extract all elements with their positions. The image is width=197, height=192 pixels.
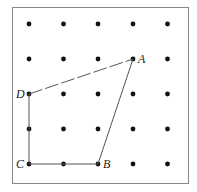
grid-dot — [96, 92, 101, 97]
segment-ab — [98, 59, 133, 164]
grid-dot — [61, 57, 66, 62]
grid-dot — [131, 127, 136, 132]
grid-dot — [165, 57, 170, 62]
grid-dot — [165, 162, 170, 167]
grid-dot — [96, 127, 101, 132]
grid-dot — [131, 22, 136, 27]
grid-dot — [165, 22, 170, 27]
grid-dots — [27, 22, 170, 167]
grid-dot — [165, 92, 170, 97]
grid-dot — [61, 92, 66, 97]
grid-dot — [131, 92, 136, 97]
label-d: D — [15, 87, 25, 101]
grid-dot — [96, 22, 101, 27]
label-c: C — [16, 157, 25, 171]
grid-dot — [61, 127, 66, 132]
grid-dot — [96, 57, 101, 62]
grid-dot — [61, 22, 66, 27]
quadrilateral — [29, 59, 133, 164]
grid-dot — [27, 22, 32, 27]
geoboard-diagram: A B C D — [0, 0, 197, 192]
label-a: A — [137, 52, 146, 66]
grid-dot — [131, 162, 136, 167]
grid-dot — [27, 57, 32, 62]
label-b: B — [103, 157, 111, 171]
grid-dot — [165, 127, 170, 132]
segment-da-dashed — [29, 59, 133, 94]
